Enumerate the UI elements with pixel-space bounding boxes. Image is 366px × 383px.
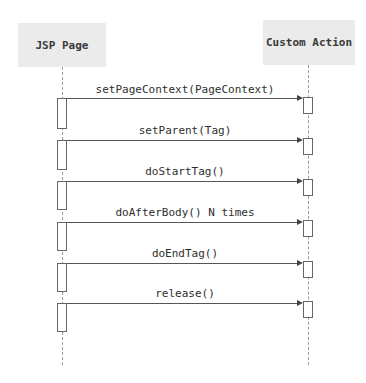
activation-jsp-page-3 bbox=[57, 181, 67, 210]
message-label: doEndTag() bbox=[67, 247, 303, 260]
message-arrow bbox=[67, 303, 297, 304]
arrowhead-icon bbox=[297, 137, 303, 143]
activation-custom-action-6 bbox=[303, 301, 313, 318]
arrowhead-icon bbox=[297, 219, 303, 225]
participant-label: JSP Page bbox=[36, 39, 89, 52]
activation-jsp-page-5 bbox=[57, 263, 67, 292]
message-arrow bbox=[67, 181, 297, 182]
activation-custom-action-5 bbox=[303, 261, 313, 278]
activation-custom-action-2 bbox=[303, 138, 313, 155]
arrowhead-icon bbox=[297, 260, 303, 266]
activation-custom-action-3 bbox=[303, 179, 313, 196]
message-label: doStartTag() bbox=[67, 165, 303, 178]
message-label: doAfterBody() N times bbox=[67, 206, 303, 219]
message-label: release() bbox=[67, 287, 303, 300]
activation-jsp-page-6 bbox=[57, 303, 67, 332]
activation-custom-action-4 bbox=[303, 220, 313, 237]
message-arrow bbox=[67, 222, 297, 223]
arrowhead-icon bbox=[297, 95, 303, 101]
activation-jsp-page-2 bbox=[57, 140, 67, 170]
message-arrow bbox=[67, 98, 297, 99]
message-label: setParent(Tag) bbox=[67, 124, 303, 137]
participant-jsp-page: JSP Page bbox=[18, 23, 106, 67]
arrowhead-icon bbox=[297, 300, 303, 306]
activation-jsp-page-1 bbox=[57, 98, 67, 129]
message-arrow bbox=[67, 140, 297, 141]
participant-custom-action: Custom Action bbox=[263, 20, 355, 65]
activation-jsp-page-4 bbox=[57, 222, 67, 251]
participant-label: Custom Action bbox=[266, 36, 352, 49]
message-arrow bbox=[67, 263, 297, 264]
arrowhead-icon bbox=[297, 178, 303, 184]
activation-custom-action-1 bbox=[303, 97, 313, 114]
message-label: setPageContext(PageContext) bbox=[67, 83, 303, 96]
